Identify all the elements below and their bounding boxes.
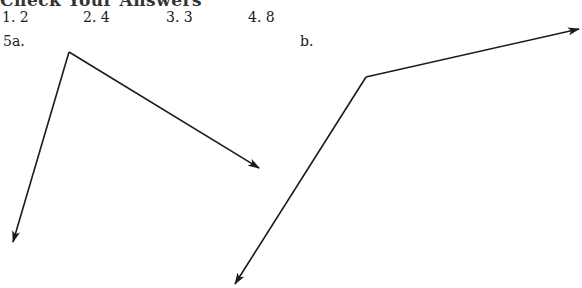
angle-5b xyxy=(235,29,579,284)
angle-5a xyxy=(13,52,259,242)
ray-5a-right xyxy=(69,52,259,168)
ray-5b-left xyxy=(235,77,366,284)
ray-5b-right xyxy=(366,29,579,77)
ray-5a-left xyxy=(13,52,69,242)
angle-diagrams xyxy=(0,0,582,288)
